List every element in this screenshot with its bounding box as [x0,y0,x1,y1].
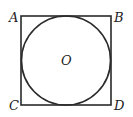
vertex-label-d: D [113,98,125,113]
vertex-label-c: C [9,98,19,113]
center-label-o: O [61,53,72,68]
vertex-label-b: B [113,10,124,25]
vertex-label-a: A [8,10,18,25]
square-with-inscribed-circle-diagram: A B C D O [0,0,133,117]
